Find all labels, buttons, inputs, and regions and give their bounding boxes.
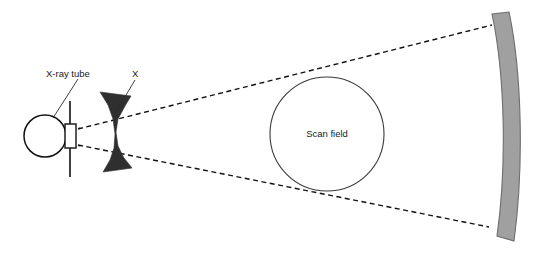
collimator-aperture [65,124,76,148]
xray-tube-leader-line [53,79,78,118]
xray-tube-housing [24,115,66,157]
lower-beam-ray [78,145,489,227]
fan-beam-rays [43,25,492,227]
diagram-canvas: Scan field X-ray tube X [0,0,544,255]
detector-arc-shape [492,12,520,241]
ct-geometry-svg: Scan field X-ray tube X [0,0,544,255]
detector-array [492,12,520,241]
bowtie-filter [100,92,132,172]
bowtie-filter-label: X [132,68,139,79]
annotations: X-ray tube X [46,68,139,118]
scan-field-group: Scan field [270,77,384,191]
upper-beam-ray [78,25,492,129]
xray-tube-label: X-ray tube [46,68,90,79]
xray-tube-assembly [24,101,76,177]
bowtie-filter-shape [100,92,132,172]
scan-field-label: Scan field [306,128,348,139]
